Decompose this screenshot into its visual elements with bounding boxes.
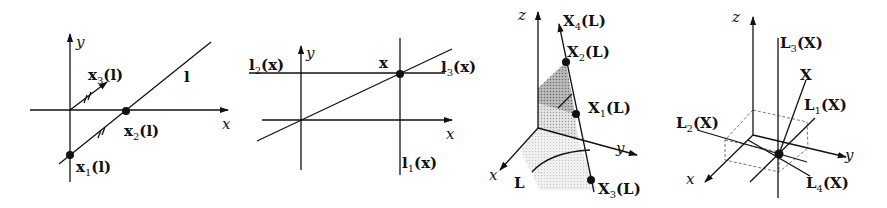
label-L4-X: L4(X) [806,174,849,194]
label-L3-X: L3(X) [780,34,823,54]
label-X4-L: X4(L) [563,12,606,32]
point-x1 [66,151,74,159]
panel-1-2d-line [30,34,228,182]
y-axis-label: y [75,33,85,51]
label-x2-l: x2(l) [124,122,159,142]
point-x [396,70,404,78]
label-l3-x: l3(x) [441,58,476,78]
x-axis-label: x [222,115,231,133]
shaded-plane-xy [520,128,597,190]
label-l1-x: l1(x) [402,154,437,174]
z-axis-label: z [731,8,740,26]
y-axis-label: y [305,44,315,62]
point-X [775,150,784,159]
point-x2 [122,107,130,115]
y-axis-label: y [615,139,625,157]
label-X2-L: X2(L) [567,43,610,63]
z-axis-label: z [517,6,526,24]
x-axis [705,135,753,182]
line-l-label: l [184,68,190,86]
label-X1-L: X1(L) [588,99,631,119]
line-L2 [697,130,807,162]
point-X-label: X [800,66,812,84]
label-x1-l: x1(l) [76,158,111,178]
x-axis-label: x [489,166,498,184]
point-X3 [587,176,595,184]
direction-vector-x3 [70,82,107,110]
label-X3-L: X3(L) [598,180,641,200]
x-axis-label: x [686,170,695,188]
label-x3-l: x3(l) [88,66,123,86]
line-l [59,42,211,164]
dashed-bounding-box [725,110,808,172]
label-L2-X: L2(X) [676,114,719,134]
line-L-label: L [514,174,525,192]
point-X1 [572,110,580,118]
y-axis-label: y [844,146,854,164]
line-l3-diagonal [257,49,452,141]
label-l2-x: l2(x) [249,56,284,76]
point-x-label: x [379,54,389,72]
label-L1-X: L1(X) [804,96,847,116]
y-axis [753,135,846,157]
figure-canvas: y x l x3(l) x2(l) x1(l) l2(x) y x l3(x) … [0,0,887,208]
x-axis-label: x [446,125,455,143]
